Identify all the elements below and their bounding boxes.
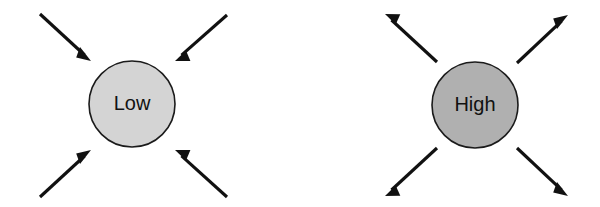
high-arrow-top-left <box>385 14 437 62</box>
low-arrow-top-right-shaft <box>182 15 228 55</box>
panel-high: High <box>385 14 568 196</box>
diagram-svg: Low High <box>0 0 600 207</box>
node-label-high: High <box>454 93 495 115</box>
low-arrow-bottom-left <box>40 150 91 197</box>
high-arrow-top-right <box>517 15 568 63</box>
low-arrow-top-right <box>175 15 227 61</box>
low-arrow-bottom-right-shaft <box>182 156 228 197</box>
diagram-canvas: Low High <box>0 0 600 207</box>
node-label-low: Low <box>114 92 151 114</box>
high-arrow-top-right-shaft <box>517 21 562 63</box>
high-arrow-bottom-right <box>517 148 568 196</box>
high-arrow-bottom-left-shaft <box>392 148 438 190</box>
low-arrow-bottom-right <box>175 150 227 197</box>
low-arrow-top-left <box>40 14 91 61</box>
panel-low: Low <box>40 14 227 197</box>
high-arrow-bottom-left <box>385 148 437 196</box>
low-arrow-top-left-shaft <box>40 14 85 55</box>
low-arrow-bottom-left-shaft <box>40 156 85 197</box>
high-arrow-bottom-right-shaft <box>517 148 562 190</box>
high-arrow-top-left-shaft <box>392 20 438 62</box>
